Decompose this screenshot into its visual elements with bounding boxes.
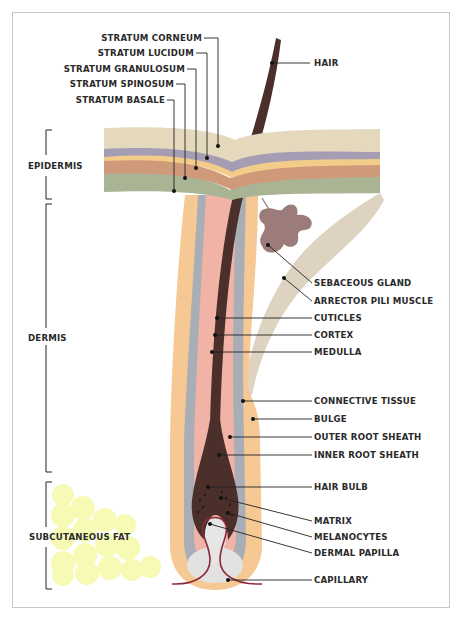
label-sebaceous-gland: SEBACEOUS GLAND [314,278,411,288]
label-stratum-corneum: STRATUM CORNEUM [101,33,202,43]
label-melanocytes: MELANOCYTES [314,532,388,542]
label-medulla: MEDULLA [314,347,362,357]
label-capillary: CAPILLARY [314,575,368,585]
label-connective-tissue: CONNECTIVE TISSUE [314,396,416,406]
label-inner-root-sheath: INNER ROOT SHEATH [314,450,419,460]
label-stratum-basale: STRATUM BASALE [76,95,165,105]
label-arrector-pili-muscle: ARRECTOR PILI MUSCLE [314,296,433,306]
label-cortex: CORTEX [314,330,353,340]
label-hair-bulb: HAIR BULB [314,482,368,492]
label-matrix: MATRIX [314,516,352,526]
label-subcutaneous-fat: SUBCUTANEOUS FAT [29,532,130,542]
label-dermal-papilla: DERMAL PAPILLA [314,548,399,558]
label-epidermis: EPIDERMIS [27,161,84,171]
label-stratum-spinosum: STRATUM SPINOSUM [70,79,174,89]
label-bulge: BULGE [314,414,347,424]
label-dermis: DERMIS [27,333,68,343]
label-cuticles: CUTICLES [314,313,362,323]
label-outer-root-sheath: OUTER ROOT SHEATH [314,432,421,442]
label-stratum-lucidum: STRATUM LUCIDUM [98,48,194,58]
hair-follicle-diagram [0,0,460,618]
label-stratum-granulosum: STRATUM GRANULOSUM [64,64,185,74]
region-brackets [46,130,52,589]
label-hair: HAIR [314,58,338,68]
